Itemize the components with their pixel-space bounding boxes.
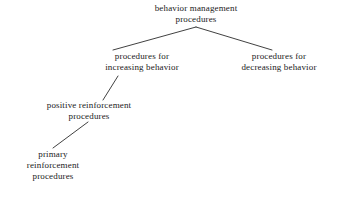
edge-positive-to-primary	[53, 122, 88, 148]
node-decreasing-line-1: procedures for	[241, 51, 316, 62]
node-primary-line-2: reinforcement	[27, 160, 79, 171]
node-behavior-management-procedures: behavior management procedures	[155, 3, 238, 25]
node-procedures-for-increasing-behavior: procedures for increasing behavior	[105, 51, 179, 73]
node-primary-line-1: primary	[27, 149, 79, 160]
edge-increasing-to-positive	[103, 76, 118, 100]
diagram-canvas: behavior management procedures procedure…	[0, 0, 341, 200]
node-root-line-1: behavior management	[155, 3, 238, 14]
node-positive-line-1: positive reinforcement	[47, 100, 132, 111]
edge-root-to-increasing	[113, 27, 196, 50]
node-increasing-line-2: increasing behavior	[105, 62, 179, 73]
node-increasing-line-1: procedures for	[105, 51, 179, 62]
edge-root-to-decreasing	[196, 27, 272, 50]
node-positive-reinforcement-procedures: positive reinforcement procedures	[47, 100, 132, 122]
node-procedures-for-decreasing-behavior: procedures for decreasing behavior	[241, 51, 316, 73]
node-primary-reinforcement-procedures: primary reinforcement procedures	[27, 149, 79, 182]
node-root-line-2: procedures	[155, 14, 238, 25]
node-positive-line-2: procedures	[47, 111, 132, 122]
node-primary-line-3: procedures	[27, 171, 79, 182]
node-decreasing-line-2: decreasing behavior	[241, 62, 316, 73]
